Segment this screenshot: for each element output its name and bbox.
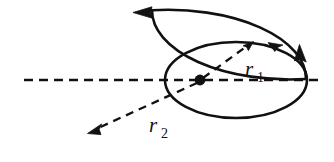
radius-r2-label: r 2 — [149, 113, 168, 141]
common-focus-dot — [195, 75, 206, 86]
radius-r2-label-subscript: 2 — [161, 126, 168, 141]
radius-r2-arrow — [88, 83, 198, 135]
radius-r1-label-subscript: 1 — [257, 70, 264, 85]
orbit-diagram-svg: r 1 r 2 — [0, 0, 334, 162]
radius-r2-label-letter: r — [149, 113, 158, 137]
figure-canvas: r 1 r 2 — [0, 0, 334, 162]
radius-r1-label-letter: r — [245, 57, 254, 81]
large-ellipse-direction-arrow — [133, 7, 154, 19]
